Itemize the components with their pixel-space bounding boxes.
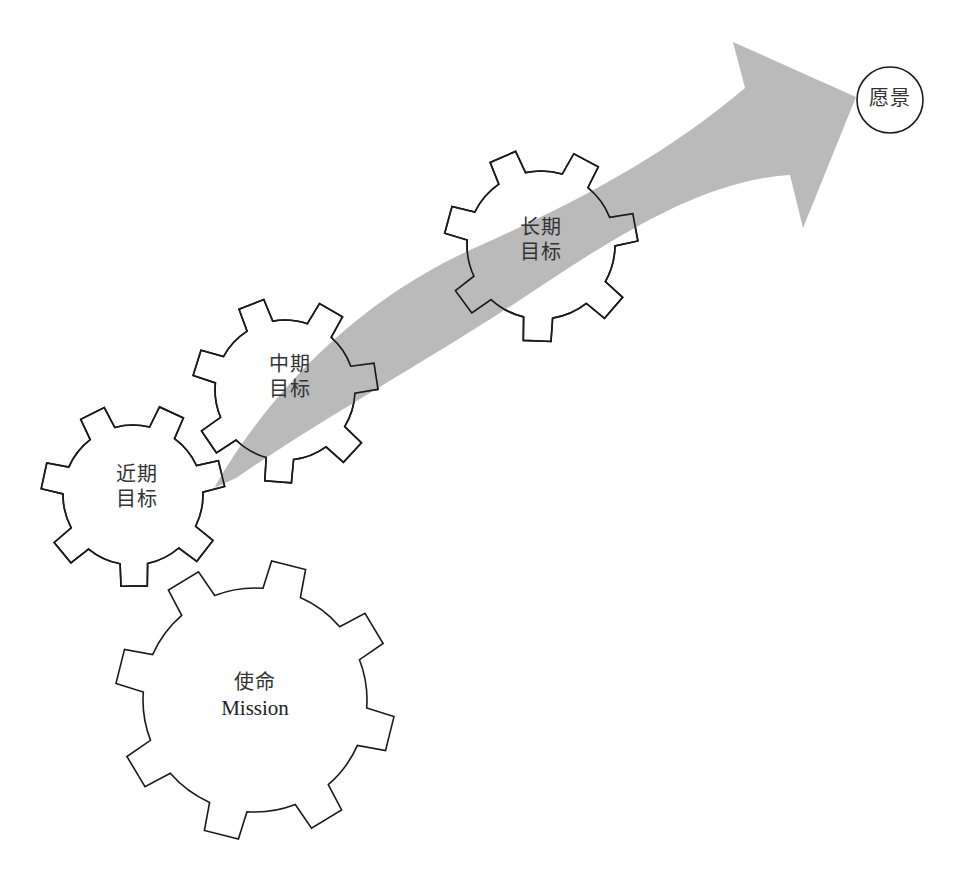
near-term-goal-label: 近期 目标 [87,462,187,512]
diagram-canvas: 愿景 长期 目标 中期 目标 近期 目标 使命 Mission [0,0,979,870]
mid-term-line2: 目标 [240,377,340,402]
mission-line2: Mission [195,695,315,721]
diagram-graphics [0,0,979,870]
long-term-line2: 目标 [491,240,591,265]
progress-arrow [214,42,856,488]
near-term-line2: 目标 [87,487,187,512]
vision-text: 愿景 [850,86,930,111]
long-term-line1: 长期 [491,215,591,240]
long-term-goal-label: 长期 目标 [491,215,591,265]
mid-term-goal-label: 中期 目标 [240,352,340,402]
mission-line1: 使命 [195,670,315,695]
near-term-line1: 近期 [87,462,187,487]
mid-term-line1: 中期 [240,352,340,377]
mission-label: 使命 Mission [195,670,315,721]
vision-label: 愿景 [850,86,930,111]
